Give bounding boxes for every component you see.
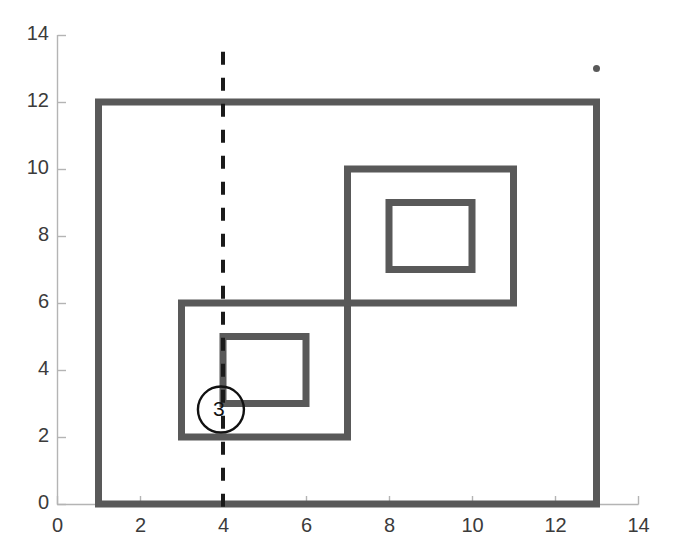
y-axis-tick-labels: 0 2 4 6 8 10 12 14 — [27, 22, 49, 513]
x-tick-label: 8 — [384, 514, 395, 536]
lower-left-outer-square — [182, 303, 348, 437]
x-axis-tick-labels: 0 2 4 6 8 10 12 14 — [52, 514, 650, 536]
y-tick-label: 14 — [27, 22, 49, 44]
isolated-marker — [593, 65, 600, 72]
figure-canvas: 0 2 4 6 8 10 12 14 0 2 4 6 8 10 — [0, 0, 673, 557]
x-tick-label: 2 — [135, 514, 146, 536]
lower-left-inner-square — [223, 337, 306, 404]
x-tick-label: 0 — [52, 514, 63, 536]
y-tick-label: 10 — [27, 156, 49, 178]
y-tick-label: 2 — [38, 424, 49, 446]
x-tick-label: 10 — [461, 514, 483, 536]
series-layer — [99, 52, 597, 511]
annotation-label: 3 — [213, 397, 225, 420]
x-tick-label: 6 — [301, 514, 312, 536]
y-tick-label: 0 — [38, 491, 49, 513]
y-tick-label: 6 — [38, 290, 49, 312]
y-tick-label: 8 — [38, 223, 49, 245]
y-axis-ticks — [58, 36, 67, 505]
x-tick-label: 12 — [544, 514, 566, 536]
points-layer — [593, 65, 600, 72]
y-tick-label: 4 — [38, 357, 49, 379]
upper-right-outer-square — [348, 169, 514, 303]
x-tick-label: 4 — [218, 514, 229, 536]
upper-right-inner-square — [389, 203, 472, 270]
y-tick-label: 12 — [27, 89, 49, 111]
plot-svg: 0 2 4 6 8 10 12 14 0 2 4 6 8 10 — [0, 0, 673, 557]
x-tick-label: 14 — [627, 514, 649, 536]
